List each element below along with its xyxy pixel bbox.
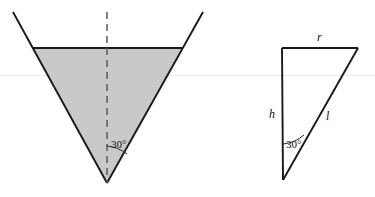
geometry-figure: 30° 30° r h l (0, 0, 375, 197)
right-angle-label: 30° (286, 138, 301, 150)
triangle-hypotenuse-l (283, 48, 358, 180)
slant-label-l: l (326, 109, 330, 123)
height-label-h: h (269, 107, 275, 121)
radius-label-r: r (317, 30, 322, 44)
left-angle-label: 30° (111, 138, 126, 150)
right-diagram-group: 30° r h l (269, 30, 358, 180)
triangle-vertical-leg-h (282, 48, 283, 180)
left-diagram-group: 30° (13, 12, 203, 183)
figure-canvas: 30° 30° r h l (0, 0, 375, 197)
